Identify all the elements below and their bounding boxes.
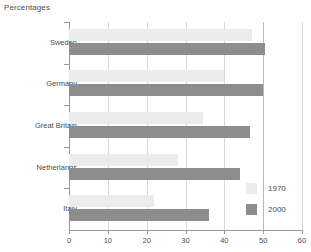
legend-item-1970[interactable]: 1970 — [246, 183, 308, 195]
x-axis-tick-label: 0 — [67, 236, 71, 245]
bar-netherlands-1970 — [69, 154, 178, 166]
x-axis-tick-label: 60 — [298, 236, 306, 245]
bar-great-britain-2000 — [69, 126, 250, 138]
legend-swatch-2000 — [246, 204, 257, 215]
bar-germany-2000 — [69, 84, 263, 96]
x-axis-tick-label: 10 — [104, 236, 112, 245]
x-axis-tick — [224, 230, 225, 234]
bar-great-britain-1970 — [69, 112, 203, 124]
bar-sweden-1970 — [69, 29, 252, 41]
bar-chart: Percentages SwedenGermanyGreat BritainNe… — [0, 0, 311, 252]
x-axis-tick — [108, 230, 109, 234]
legend-label-2000: 2000 — [268, 205, 286, 214]
legend-item-2000[interactable]: 2000 — [246, 204, 308, 216]
x-axis-tick-label: 50 — [259, 236, 267, 245]
x-axis-tick-label: 40 — [220, 236, 228, 245]
x-axis-tick — [302, 230, 303, 234]
chart-title: Percentages — [4, 3, 50, 12]
x-axis-tick — [147, 230, 148, 234]
bar-germany-1970 — [69, 70, 224, 82]
x-axis-tick — [69, 230, 70, 234]
chart-legend: 19702000 — [246, 183, 308, 223]
legend-swatch-1970 — [246, 183, 257, 194]
bar-italy-2000 — [69, 209, 209, 221]
legend-label-1970: 1970 — [268, 184, 286, 193]
bar-netherlands-2000 — [69, 168, 240, 180]
x-axis-tick — [186, 230, 187, 234]
x-axis-tick-label: 30 — [181, 236, 189, 245]
bar-sweden-2000 — [69, 43, 265, 55]
x-axis-tick-label: 20 — [142, 236, 150, 245]
x-axis-tick — [263, 230, 264, 234]
bar-italy-1970 — [69, 195, 154, 207]
